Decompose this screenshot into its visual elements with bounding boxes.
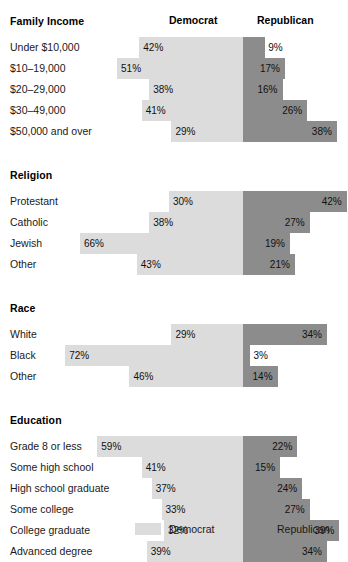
chart-row: Advanced degree39%34% <box>0 541 348 562</box>
bar-democrat: 59% <box>97 436 243 457</box>
chart-legend: Democrat Republican <box>0 521 348 539</box>
bar-value-republican: 34% <box>302 324 322 345</box>
bar-republican: 22% <box>243 436 297 457</box>
chart-row: $30–49,00041%26% <box>0 100 348 121</box>
row-label: Some high school <box>10 457 93 478</box>
bar-democrat: 46% <box>129 366 243 387</box>
bar-republican: 17% <box>243 58 285 79</box>
bar-democrat: 29% <box>171 324 243 345</box>
bar-republican: 27% <box>243 499 310 520</box>
bar-republican: 42% <box>243 191 347 212</box>
bar-value-republican: 15% <box>255 457 275 478</box>
bar-republican: 14% <box>243 366 278 387</box>
bar-democrat: 30% <box>169 191 243 212</box>
bar-democrat: 38% <box>149 79 243 100</box>
chart-row: $50,000 and over29%38% <box>0 121 348 142</box>
bar-value-democrat: 72% <box>69 345 89 366</box>
chart-row: Protestant30%42% <box>0 191 348 212</box>
legend-swatch-democrat <box>135 523 161 535</box>
bar-value-democrat: 41% <box>146 457 166 478</box>
row-label: Other <box>10 366 36 387</box>
bar-value-democrat: 37% <box>156 478 176 499</box>
bar-value-democrat: 42% <box>143 37 163 58</box>
bar-democrat: 33% <box>162 499 244 520</box>
bar-value-democrat: 39% <box>151 541 171 562</box>
column-header-democrat: Democrat <box>169 14 217 26</box>
bar-republican: 27% <box>243 212 310 233</box>
bar-republican: 34% <box>243 541 327 562</box>
row-label: Catholic <box>10 212 48 233</box>
chart-row: Some college33%27% <box>0 499 348 520</box>
legend-swatch-republican <box>243 523 269 535</box>
chart-row: Under $10,00042%9% <box>0 37 348 58</box>
bar-value-republican: 26% <box>282 100 302 121</box>
section-title-education: Education <box>10 414 62 426</box>
bar-democrat: 29% <box>171 121 243 142</box>
bar-value-republican: 24% <box>277 478 297 499</box>
row-label: White <box>10 324 37 345</box>
chart-row: Catholic38%27% <box>0 212 348 233</box>
bar-democrat: 72% <box>65 345 243 366</box>
chart-row: Other43%21% <box>0 254 348 275</box>
bar-value-republican: 19% <box>265 233 285 254</box>
row-label: Some college <box>10 499 74 520</box>
bar-democrat: 42% <box>139 37 243 58</box>
bar-value-democrat: 41% <box>146 100 166 121</box>
bar-republican: 16% <box>243 79 283 100</box>
bar-value-democrat: 59% <box>101 436 121 457</box>
row-label: Black <box>10 345 36 366</box>
row-label: Jewish <box>10 233 42 254</box>
bar-value-republican: 3% <box>253 345 267 366</box>
bar-democrat: 41% <box>142 100 243 121</box>
row-label: Grade 8 or less <box>10 436 82 457</box>
chart-row: Grade 8 or less59%22% <box>0 436 348 457</box>
bar-republican: 15% <box>243 457 280 478</box>
bar-value-democrat: 33% <box>166 499 186 520</box>
bar-republican: 21% <box>243 254 295 275</box>
row-label: Protestant <box>10 191 58 212</box>
bar-democrat: 41% <box>142 457 243 478</box>
bar-republican: 38% <box>243 121 337 142</box>
row-label: Under $10,000 <box>10 37 79 58</box>
chart-row: Some high school41%15% <box>0 457 348 478</box>
chart-row: High school graduate37%24% <box>0 478 348 499</box>
bar-value-democrat: 66% <box>84 233 104 254</box>
chart-row: Jewish66%19% <box>0 233 348 254</box>
section-title-family-income: Family Income <box>10 15 84 27</box>
row-label: High school graduate <box>10 478 109 499</box>
bar-value-republican: 38% <box>312 121 332 142</box>
bar-republican: 19% <box>243 233 290 254</box>
bar-democrat: 43% <box>137 254 243 275</box>
bar-republican: 24% <box>243 478 302 499</box>
row-label: $10–19,000 <box>10 58 65 79</box>
section-title-race: Race <box>10 302 36 314</box>
bar-democrat: 51% <box>117 58 243 79</box>
bar-value-democrat: 43% <box>141 254 161 275</box>
bar-value-republican: 16% <box>258 79 278 100</box>
chart-row: Black72%3% <box>0 345 348 366</box>
bar-value-republican: 17% <box>260 58 280 79</box>
bar-value-democrat: 30% <box>173 191 193 212</box>
chart-row: $20–29,00038%16% <box>0 79 348 100</box>
bar-value-republican: 34% <box>302 541 322 562</box>
legend-item-republican: Republican <box>243 521 330 537</box>
bar-democrat: 66% <box>80 233 243 254</box>
bar-value-republican: 22% <box>272 436 292 457</box>
bar-value-democrat: 29% <box>175 121 195 142</box>
bar-republican: 34% <box>243 324 327 345</box>
bar-value-republican: 14% <box>253 366 273 387</box>
bar-value-republican: 27% <box>285 212 305 233</box>
bar-republican: 9% <box>243 37 265 58</box>
bar-democrat: 39% <box>147 541 243 562</box>
bar-value-republican: 9% <box>268 37 282 58</box>
section-title-religion: Religion <box>10 169 52 181</box>
bar-value-republican: 42% <box>322 191 342 212</box>
row-label: $30–49,000 <box>10 100 65 121</box>
bar-value-democrat: 38% <box>153 79 173 100</box>
bar-value-democrat: 38% <box>153 212 173 233</box>
bar-value-republican: 21% <box>270 254 290 275</box>
chart-row: Other46%14% <box>0 366 348 387</box>
bar-democrat: 38% <box>149 212 243 233</box>
bar-republican: 3% <box>243 345 250 366</box>
